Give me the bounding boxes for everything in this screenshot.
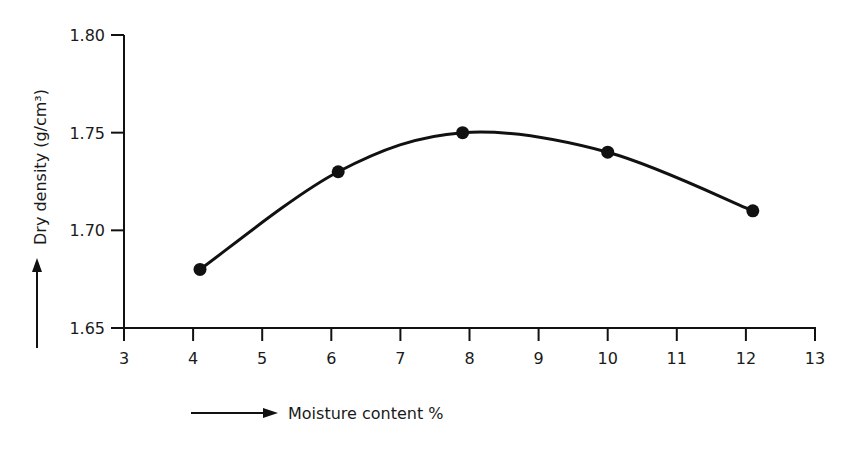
data-points [194, 126, 760, 276]
x-tick-label: 7 [395, 349, 405, 368]
x-arrowhead-icon [263, 408, 278, 418]
y-tick-label: 1.70 [69, 221, 105, 240]
x-tick-label: 4 [188, 349, 198, 368]
y-ticks: 1.651.701.751.80 [69, 26, 124, 338]
data-point-marker [601, 146, 614, 159]
x-tick-label: 3 [119, 349, 129, 368]
x-tick-label: 10 [598, 349, 618, 368]
x-tick-label: 13 [805, 349, 825, 368]
data-curve [200, 132, 753, 269]
y-tick-label: 1.75 [69, 124, 105, 143]
y-tick-label: 1.80 [69, 26, 105, 45]
chart: 1.651.701.751.80 345678910111213 Dry den… [0, 0, 850, 450]
data-point-marker [456, 126, 469, 139]
x-tick-label: 12 [736, 349, 756, 368]
x-axis-label: Moisture content % [288, 404, 444, 423]
y-axis-label-group: Dry density (g/cm³) [31, 89, 50, 348]
y-arrowhead-icon [32, 258, 42, 272]
y-tick-label: 1.65 [69, 319, 105, 338]
x-tick-label: 11 [667, 349, 687, 368]
x-axis-label-group: Moisture content % [191, 404, 444, 423]
data-point-marker [194, 263, 207, 276]
x-ticks: 345678910111213 [119, 328, 825, 368]
data-point-marker [746, 204, 759, 217]
data-point-marker [332, 165, 345, 178]
x-tick-label: 9 [534, 349, 544, 368]
x-tick-label: 8 [464, 349, 474, 368]
axes [124, 35, 816, 328]
x-tick-label: 6 [326, 349, 336, 368]
y-axis-label: Dry density (g/cm³) [31, 89, 50, 245]
x-tick-label: 5 [257, 349, 267, 368]
